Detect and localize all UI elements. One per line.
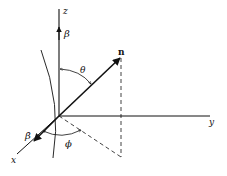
y-axis-label: y: [208, 117, 215, 127]
phi-arc: [43, 130, 81, 135]
n-xy-projection: [59, 116, 121, 157]
n-vector: [59, 58, 120, 116]
z-axis-label: z: [62, 6, 68, 16]
n-vector-label: n: [118, 47, 125, 57]
theta-label: θ: [80, 65, 86, 75]
particle-trajectory-curve: [41, 50, 56, 158]
beta-dot-label: β̇: [24, 130, 31, 141]
radiation-geometry-diagram: z y x β β̇ n θ ϕ: [0, 0, 227, 176]
beta-label: β: [63, 28, 70, 39]
phi-label: ϕ: [65, 138, 72, 149]
theta-arc: [60, 69, 91, 84]
x-axis-label: x: [11, 155, 16, 165]
